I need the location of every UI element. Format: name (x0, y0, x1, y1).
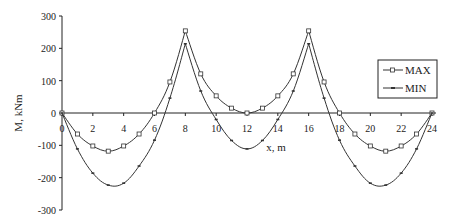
square-marker-icon (260, 106, 264, 110)
y-axis: 3002001000-100-200-300 (38, 11, 62, 216)
y-tick-label: 100 (41, 76, 56, 87)
y-tick-label: -300 (38, 205, 56, 216)
square-marker-icon (230, 106, 234, 110)
x-axis: 024681012141618202224 (60, 113, 438, 134)
square-marker-icon (399, 144, 403, 148)
series-layer (60, 29, 434, 186)
square-marker-icon (291, 72, 295, 76)
x-tick-label: 20 (365, 123, 375, 134)
square-marker-icon (199, 72, 203, 76)
x-tick-label: 8 (183, 123, 188, 134)
legend-label-min: MIN (405, 82, 426, 94)
y-tick-label: -200 (38, 173, 56, 184)
square-marker-icon (91, 144, 95, 148)
bending-moment-chart: 3002001000-100-200-300 02468101214161820… (0, 0, 452, 224)
square-marker-icon (391, 68, 395, 72)
square-marker-icon (137, 132, 141, 136)
y-tick-label: 200 (41, 43, 56, 54)
square-marker-icon (245, 111, 249, 115)
square-marker-icon (307, 29, 311, 33)
x-tick-label: 16 (304, 123, 314, 134)
square-marker-icon (168, 80, 172, 84)
x-tick-label: 4 (121, 123, 126, 134)
square-marker-icon (368, 144, 372, 148)
y-axis-label: M, kNm (12, 94, 24, 132)
x-tick-label: 12 (242, 123, 252, 134)
y-tick-label: -100 (38, 140, 56, 151)
x-tick-label: 24 (427, 123, 437, 134)
square-marker-icon (353, 132, 357, 136)
x-tick-label: 2 (90, 123, 95, 134)
square-marker-icon (214, 94, 218, 98)
square-marker-icon (415, 132, 419, 136)
square-marker-icon (276, 94, 280, 98)
square-marker-icon (75, 132, 79, 136)
legend-label-max: MAX (405, 64, 431, 76)
square-marker-icon (183, 29, 187, 33)
y-tick-label: 300 (41, 11, 56, 22)
x-tick-label: 6 (152, 123, 157, 134)
square-marker-icon (106, 149, 110, 153)
x-tick-label: 0 (60, 123, 65, 134)
y-tick-label: 0 (51, 108, 56, 119)
square-marker-icon (153, 111, 157, 115)
square-marker-icon (122, 144, 126, 148)
square-marker-icon (338, 111, 342, 115)
square-marker-icon (322, 80, 326, 84)
square-marker-icon (384, 149, 388, 153)
x-tick-label: 22 (396, 123, 406, 134)
legend: MAX MIN (378, 60, 437, 98)
x-axis-label: x, m (266, 141, 286, 153)
